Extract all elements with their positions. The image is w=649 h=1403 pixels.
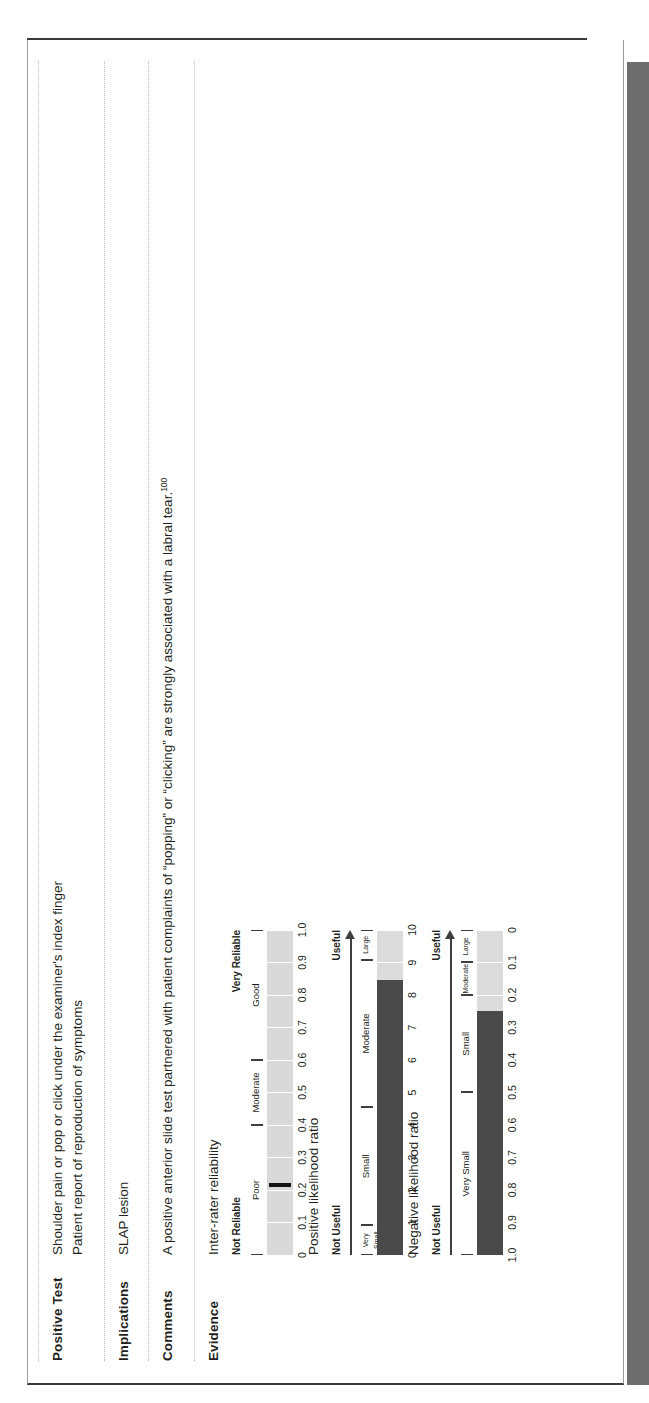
inter-rater-reliability-track-segment — [267, 995, 293, 1028]
positive-likelihood-ratio-bracket-small: Small — [361, 1107, 373, 1225]
row-label-comments: Comments — [158, 1265, 176, 1361]
negative-likelihood-ratio-tick-label: 0.6 — [505, 1118, 521, 1133]
row-divider — [148, 61, 149, 1361]
negative-likelihood-ratio-tick-label: 0.1 — [505, 955, 521, 970]
chart-inter-rater-reliability: Inter-rater reliabilityNot ReliableVery … — [204, 930, 311, 1255]
positive-likelihood-ratio-right-label: Useful — [329, 930, 344, 961]
negative-likelihood-ratio-bracket-label: Large — [460, 931, 471, 962]
table-row-comments: Comments A positive anterior slide test … — [158, 478, 178, 1361]
table-row-evidence: Evidence Inter-rater reliabilityNot Reli… — [204, 61, 504, 1361]
comments-line-1: A positive anterior slide test partnered… — [158, 478, 178, 1255]
row-divider — [38, 61, 39, 1361]
positive-likelihood-ratio-bar-track — [377, 930, 403, 1255]
inter-rater-reliability-right-label: Very Reliable — [229, 930, 244, 992]
negative-likelihood-ratio-tick-label: 1.0 — [505, 1248, 521, 1263]
inter-rater-reliability-category-brackets: PoorModerateGood — [245, 930, 267, 1255]
inter-rater-reliability-bracket-label: Good — [250, 931, 261, 1059]
negative-likelihood-ratio-left-label: Not Useful — [429, 1205, 444, 1255]
negative-likelihood-ratio-bar — [477, 930, 503, 1255]
positive-likelihood-ratio-value-fill — [377, 980, 403, 1255]
negative-likelihood-ratio-tick-label: 0.8 — [505, 1183, 521, 1198]
table-row-implications: Implications SLAP lesion — [114, 1182, 134, 1361]
row-body-positive-test: Shoulder pain or pop or click under the … — [48, 881, 89, 1265]
row-divider — [194, 61, 195, 1361]
positive-test-line-2: Patient report of reproduction of sympto… — [68, 881, 88, 1255]
negative-likelihood-ratio-tick-label: 0.4 — [505, 1053, 521, 1068]
inter-rater-reliability-left-label: Not Reliable — [229, 1197, 244, 1255]
negative-likelihood-ratio-tick-label: 0.5 — [505, 1085, 521, 1100]
comments-reference: 100 — [159, 478, 169, 492]
negative-likelihood-ratio-value-fill — [477, 1011, 503, 1255]
negative-likelihood-ratio-tick-label: 0.7 — [505, 1150, 521, 1165]
negative-likelihood-ratio-track-segment — [477, 963, 503, 996]
negative-likelihood-ratio-bar-track — [477, 930, 503, 1255]
negative-likelihood-ratio-track-segment — [477, 930, 503, 963]
inter-rater-reliability-track-segment — [267, 1093, 293, 1126]
negative-likelihood-ratio-axis-ticks: 1.00.90.80.70.60.50.40.30.20.10 — [505, 930, 521, 1255]
row-body-implications: SLAP lesion — [114, 1182, 134, 1265]
negative-likelihood-ratio-tick-label: 0.2 — [505, 988, 521, 1003]
page-edge-right — [27, 38, 587, 40]
negative-likelihood-ratio-tick-label: 0 — [505, 927, 521, 933]
positive-likelihood-ratio-bracket-large: Large — [361, 930, 373, 960]
positive-likelihood-ratio-bracket-label: Small — [360, 1108, 371, 1224]
negative-likelihood-ratio-tick-label: 0.9 — [505, 1215, 521, 1230]
positive-likelihood-ratio-bar — [377, 930, 403, 1255]
inter-rater-reliability-bracket-label: Poor — [250, 1126, 261, 1254]
inter-rater-reliability-track-segment — [267, 1060, 293, 1093]
negative-likelihood-ratio-tick-label: 0.3 — [505, 1020, 521, 1035]
negative-likelihood-ratio-axis-arrow — [445, 930, 455, 1255]
row-label-positive-test: Positive Test — [48, 1265, 66, 1361]
inter-rater-reliability-track-segment — [267, 1190, 293, 1223]
positive-likelihood-ratio-bracket-moderate: Moderate — [361, 960, 373, 1108]
negative-likelihood-ratio-right-label: Useful — [429, 930, 444, 961]
inter-rater-reliability-track-segment — [267, 1223, 293, 1256]
row-label-implications: Implications — [114, 1265, 132, 1361]
negative-likelihood-ratio-bracket-label: Small — [460, 996, 471, 1092]
table-row-positive-test: Positive Test Shoulder pain or pop or cl… — [48, 881, 89, 1361]
evidence-charts: Inter-rater reliabilityNot ReliableVery … — [204, 61, 504, 1255]
positive-likelihood-ratio-bracket-very-small: Very Small — [361, 1225, 373, 1255]
positive-likelihood-ratio-title: Positive likelihood ratio — [304, 930, 324, 1255]
row-label-evidence: Evidence — [204, 1265, 222, 1361]
positive-likelihood-ratio-bracket-label: Large — [360, 931, 371, 959]
inter-rater-reliability-value-marker — [269, 1183, 291, 1187]
positive-test-line-1: Shoulder pain or pop or click under the … — [48, 881, 68, 1255]
inter-rater-reliability-bar — [267, 930, 293, 1255]
positive-likelihood-ratio-left-label: Not Useful — [329, 1205, 344, 1255]
positive-likelihood-ratio-bracket-label: Moderate — [360, 961, 371, 1107]
negative-likelihood-ratio-bracket-label: Moderate — [460, 964, 471, 995]
positive-likelihood-ratio-category-brackets: Very SmallSmallModerateLarge — [355, 930, 377, 1255]
negative-likelihood-ratio-bracket-very-small: Very Small — [461, 1093, 473, 1256]
inter-rater-reliability-bracket-label: Moderate — [250, 1061, 261, 1124]
inter-rater-reliability-track-segment — [267, 1028, 293, 1061]
implications-line-1: SLAP lesion — [114, 1182, 134, 1255]
positive-likelihood-ratio-axis-arrow — [345, 930, 355, 1255]
inter-rater-reliability-track-segment — [267, 1125, 293, 1158]
page-footer-band — [627, 62, 649, 1385]
negative-likelihood-ratio-bracket-large: Large — [461, 930, 473, 963]
positive-likelihood-ratio-track-segment — [377, 930, 403, 963]
clinical-test-table: Positive Test Shoulder pain or pop or cl… — [38, 61, 624, 1361]
inter-rater-reliability-bar-track — [267, 930, 293, 1255]
negative-likelihood-ratio-title: Negative likelihood ratio — [404, 930, 424, 1255]
inter-rater-reliability-track-segment — [267, 963, 293, 996]
row-body-comments: A positive anterior slide test partnered… — [158, 478, 178, 1265]
negative-likelihood-ratio-bracket-small: Small — [461, 995, 473, 1093]
row-divider — [104, 61, 105, 1361]
comments-text: A positive anterior slide test partnered… — [160, 492, 175, 1255]
negative-likelihood-ratio-bracket-label: Very Small — [460, 1094, 471, 1255]
inter-rater-reliability-title: Inter-rater reliability — [204, 930, 224, 1255]
chart-negative-likelihood-ratio: Negative likelihood ratioNot UsefulUsefu… — [404, 930, 521, 1255]
negative-likelihood-ratio-bracket-moderate: Moderate — [461, 963, 473, 996]
inter-rater-reliability-bracket-good: Good — [251, 930, 263, 1060]
inter-rater-reliability-bracket-poor: Poor — [251, 1125, 263, 1255]
inter-rater-reliability-track-segment — [267, 930, 293, 963]
negative-likelihood-ratio-category-brackets: Very SmallSmallModerateLarge — [455, 930, 477, 1255]
inter-rater-reliability-bracket-moderate: Moderate — [251, 1060, 263, 1125]
